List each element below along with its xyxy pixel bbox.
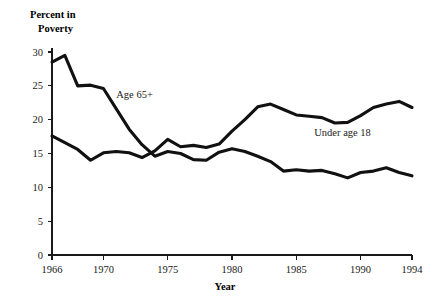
x-tick-label: 1994 bbox=[402, 264, 424, 275]
x-tick-label: 1966 bbox=[42, 264, 63, 275]
y-tick-label: 15 bbox=[33, 148, 44, 159]
x-tick-label: 1985 bbox=[286, 264, 307, 275]
chart-canvas: Percent in Poverty 051015202530 19661970… bbox=[0, 0, 435, 307]
x-axis-ticks: 1966197019751980198519901994 bbox=[42, 255, 424, 275]
x-axis: 1966197019751980198519901994 bbox=[42, 255, 424, 275]
x-tick-label: 1990 bbox=[350, 264, 371, 275]
x-axis-title: Year bbox=[215, 281, 236, 292]
y-axis: 051015202530 bbox=[33, 47, 53, 261]
y-axis-title-line2: Poverty bbox=[38, 23, 74, 34]
x-tick-label: 1975 bbox=[157, 264, 178, 275]
data-series-group bbox=[52, 55, 412, 177]
y-tick-label: 10 bbox=[33, 182, 44, 193]
y-tick-label: 0 bbox=[38, 250, 43, 261]
series-annotation-group: Age 65+Under age 18 bbox=[116, 89, 371, 138]
y-tick-label: 25 bbox=[33, 80, 44, 91]
y-axis-ticks: 051015202530 bbox=[33, 47, 53, 261]
series-label-2: Under age 18 bbox=[314, 127, 371, 138]
x-tick-label: 1970 bbox=[93, 264, 114, 275]
y-tick-label: 5 bbox=[38, 216, 43, 227]
y-tick-label: 30 bbox=[33, 47, 44, 58]
poverty-rate-line-chart: Percent in Poverty 051015202530 19661970… bbox=[0, 0, 435, 307]
y-tick-label: 20 bbox=[33, 114, 44, 125]
x-tick-label: 1980 bbox=[222, 264, 243, 275]
series-label-1: Age 65+ bbox=[116, 89, 153, 100]
y-axis-title-group: Percent in Poverty bbox=[30, 9, 76, 34]
y-axis-title-line1: Percent in bbox=[30, 9, 76, 20]
